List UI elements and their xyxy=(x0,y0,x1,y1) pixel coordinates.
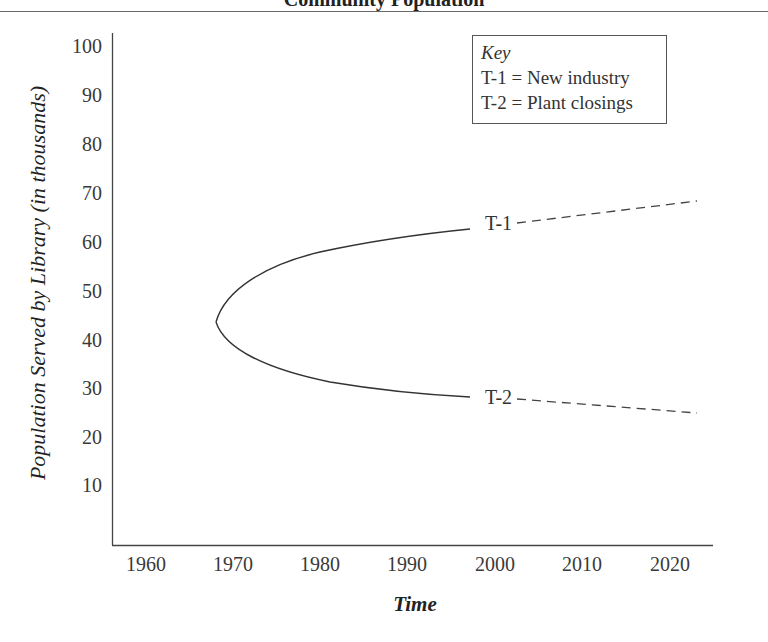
y-tick: 40 xyxy=(62,329,102,352)
y-tick: 10 xyxy=(62,474,102,497)
t1-series-label: T-1 xyxy=(483,212,514,235)
legend-title: Key xyxy=(481,40,658,65)
y-tick: 80 xyxy=(62,133,102,156)
t2-series-label: T-2 xyxy=(483,386,514,409)
y-tick: 100 xyxy=(62,35,102,58)
x-tick: 1990 xyxy=(377,553,437,576)
y-tick: 70 xyxy=(62,182,102,205)
t1-solid-line xyxy=(216,229,470,322)
y-axis-label: Population Served by Library (in thousan… xyxy=(25,86,51,480)
legend-key: Key T-1 = New industry T-2 = Plant closi… xyxy=(472,35,667,124)
y-tick: 60 xyxy=(62,231,102,254)
x-axis-label: Time xyxy=(393,592,437,617)
x-tick: 2000 xyxy=(465,553,525,576)
y-tick: 90 xyxy=(62,84,102,107)
y-tick: 30 xyxy=(62,377,102,400)
t2-solid-line xyxy=(216,322,470,397)
t2-dashed-projection xyxy=(517,399,697,413)
x-tick: 2010 xyxy=(552,553,612,576)
x-tick: 1980 xyxy=(290,553,350,576)
y-tick: 50 xyxy=(62,280,102,303)
x-tick: 1970 xyxy=(203,553,263,576)
t1-dashed-projection xyxy=(517,201,697,223)
x-tick: 1960 xyxy=(116,553,176,576)
legend-entry-t1: T-1 = New industry xyxy=(481,65,658,90)
y-tick: 20 xyxy=(62,426,102,449)
legend-entry-t2: T-2 = Plant closings xyxy=(481,90,658,115)
x-tick: 2020 xyxy=(640,553,700,576)
